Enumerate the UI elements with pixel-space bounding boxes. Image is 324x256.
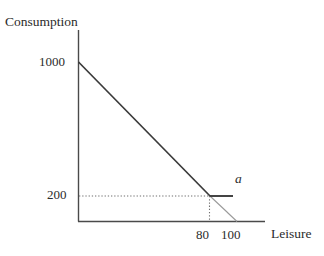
y-tick-label-200: 200 [47, 188, 67, 201]
x-tick-label-80: 80 [196, 228, 209, 241]
budget-constraint-plot [0, 0, 324, 256]
x-axis-title: Leisure [271, 227, 311, 241]
y-tick-label-1000: 1000 [39, 55, 65, 68]
budget-constraint-sloped-segment [79, 62, 211, 196]
y-axis-title: Consumption [5, 15, 78, 29]
point-a-label: a [235, 172, 242, 186]
x-tick-label-100: 100 [221, 228, 241, 241]
figure-canvas: Consumption Leisure 1000 200 80 100 a [0, 0, 324, 256]
unconstrained-budget-extension-line [210, 196, 237, 222]
